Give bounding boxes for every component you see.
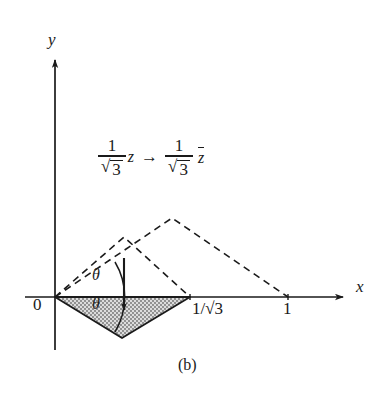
formula-left-variable: z — [128, 148, 134, 166]
fraction-left-denominator: √ 3 — [98, 157, 126, 178]
formula-right-term: 1 √ 3 z — [165, 137, 204, 178]
figure-graphic — [0, 0, 384, 399]
formula-right-variable-conjugate: z — [198, 147, 204, 167]
radicand-right: 3 — [177, 160, 190, 178]
x-tick-label-inv-sqrt-3: 1/√3 — [192, 300, 223, 317]
radical-sign-right: √ — [168, 158, 177, 175]
dashed-large-triangle — [55, 218, 288, 297]
fraction-left: 1 √ 3 — [98, 137, 126, 178]
fraction-right: 1 √ 3 — [165, 137, 193, 178]
mapping-formula: 1 √ 3 z → 1 √ 3 z — [98, 137, 204, 178]
radicand-left: 3 — [110, 160, 123, 178]
fraction-right-numerator: 1 — [170, 137, 189, 155]
x-axis-label: x — [356, 278, 364, 295]
figure-container: y x 0 1/√3 1 θ θ (b) 1 √ 3 z → 1 — [0, 0, 384, 399]
formula-left-term: 1 √ 3 z — [98, 137, 134, 178]
angle-label-theta-upper: θ — [92, 267, 100, 283]
radical-sign-left: √ — [101, 158, 110, 175]
origin-label: 0 — [33, 296, 42, 313]
angle-label-theta-lower: θ — [92, 296, 100, 312]
x-tick-label-one: 1 — [283, 300, 292, 317]
fraction-left-numerator: 1 — [103, 137, 122, 155]
maps-to-arrow-icon: → — [141, 147, 158, 167]
shaded-region — [55, 297, 190, 338]
y-axis-label: y — [48, 31, 56, 48]
dashed-small-triangle — [55, 237, 190, 297]
fraction-right-denominator: √ 3 — [165, 157, 193, 178]
figure-caption: (b) — [178, 357, 197, 373]
